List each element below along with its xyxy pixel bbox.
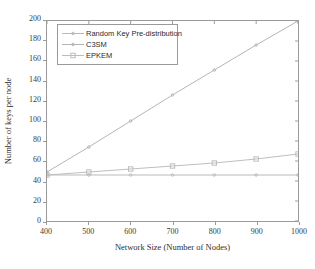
x-tick-label: 600 (116, 227, 144, 236)
x-tick-mark (173, 222, 174, 225)
legend-label: Random Key Pre-distribution (86, 29, 182, 39)
x-tick-mark (299, 222, 300, 225)
y-tick-label: 160 (29, 54, 41, 63)
y-tick-label: 100 (29, 115, 41, 124)
x-tick-mark (215, 222, 216, 225)
x-axis-title: Network Size (Number of Nodes) (46, 242, 299, 253)
x-tick-label: 1000 (285, 227, 313, 236)
y-tick-label: 60 (33, 155, 41, 164)
x-tick-label: 800 (201, 227, 229, 236)
x-tick-label: 900 (243, 227, 271, 236)
y-tick-label: 20 (33, 196, 41, 205)
legend-label: EPKEM (86, 51, 112, 61)
chart-legend: Random Key Pre-distributionC3SMEPKEM (57, 24, 178, 65)
y-tick-label: 40 (33, 176, 41, 185)
legend-marker-icon (60, 28, 86, 39)
x-tick-label: 500 (74, 227, 102, 236)
y-axis-title-container: Number of keys per node (2, 20, 14, 222)
y-axis-title: Number of keys per node (3, 78, 14, 164)
y-tick-label: 80 (33, 135, 41, 144)
legend-item-epkem[interactable]: EPKEM (60, 50, 175, 61)
chart-figure: Number of keys per node 0204060801001201… (0, 0, 315, 269)
y-tick-label: 120 (29, 95, 41, 104)
x-tick-mark (88, 222, 89, 225)
legend-item-c3sm[interactable]: C3SM (60, 39, 175, 50)
y-tick-label: 180 (29, 34, 41, 43)
y-tick-label: 200 (29, 14, 41, 23)
legend-marker-icon (60, 50, 86, 61)
x-tick-mark (130, 222, 131, 225)
legend-label: C3SM (86, 40, 107, 50)
x-axis-ticks: 4005006007008009001000 (46, 222, 299, 238)
legend-marker-icon (60, 39, 86, 50)
y-tick-label: 0 (37, 216, 41, 225)
x-tick-label: 400 (32, 227, 60, 236)
x-tick-mark (46, 222, 47, 225)
legend-item-random-key-pre-distribution[interactable]: Random Key Pre-distribution (60, 28, 175, 39)
series-line-epkem (47, 154, 298, 175)
y-tick-label: 140 (29, 75, 41, 84)
x-tick-label: 700 (159, 227, 187, 236)
x-tick-mark (257, 222, 258, 225)
